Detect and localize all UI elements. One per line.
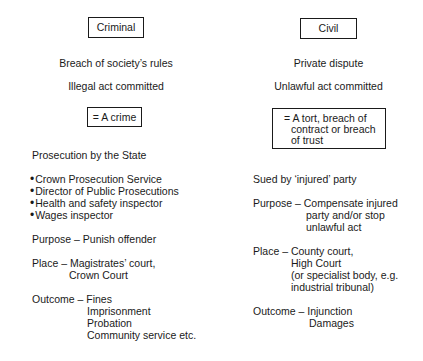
prosecutor-item: Health and safety inspector: [30, 197, 162, 209]
criminal-place-cont: Crown Court: [69, 269, 128, 281]
civil-place: Place – County court,: [253, 245, 353, 257]
civil-purpose-cont: unlawful act: [306, 221, 361, 233]
civil-purpose: Purpose – Compensate injured: [253, 197, 398, 209]
civil-outcome-cont: Damages: [309, 317, 354, 329]
criminal-outcome: Outcome – Fines: [32, 293, 112, 305]
criminal-outcome-cont: Imprisonment: [87, 305, 151, 317]
civil-place-cont: (or specialist body, e.g.: [291, 269, 398, 281]
criminal-purpose: Purpose – Punish offender: [32, 233, 156, 245]
prosecutor-item: Director of Public Prosecutions: [30, 185, 179, 197]
criminal-outcome-cont: Community service etc.: [87, 329, 196, 341]
civil-line-2: Unlawful act committed: [250, 80, 407, 92]
criminal-prosecution: Prosecution by the State: [32, 149, 146, 161]
criminal-outcome-cont: Probation: [87, 317, 132, 329]
civil-heading: Civil: [300, 22, 357, 34]
civil-sued-by: Sued by ‘injured’ party: [253, 173, 357, 185]
criminal-line-1: Breach of society’s rules: [30, 57, 202, 69]
prosecutor-item: Wages inspector: [30, 209, 113, 221]
criminal-heading: Criminal: [88, 21, 144, 33]
prosecutor-item: Crown Prosecution Service: [30, 173, 162, 185]
civil-result-line: of trust: [291, 134, 323, 146]
criminal-result: = A crime: [87, 111, 142, 123]
civil-outcome: Outcome – Injunction: [253, 305, 352, 317]
civil-place-cont: industrial tribunal): [291, 281, 374, 293]
civil-place-cont: High Court: [291, 257, 341, 269]
criminal-place: Place – Magistrates’ court,: [32, 257, 155, 269]
civil-purpose-cont: party and/or stop: [306, 209, 385, 221]
criminal-line-2: Illegal act committed: [30, 80, 202, 92]
civil-line-1: Private dispute: [250, 57, 407, 69]
